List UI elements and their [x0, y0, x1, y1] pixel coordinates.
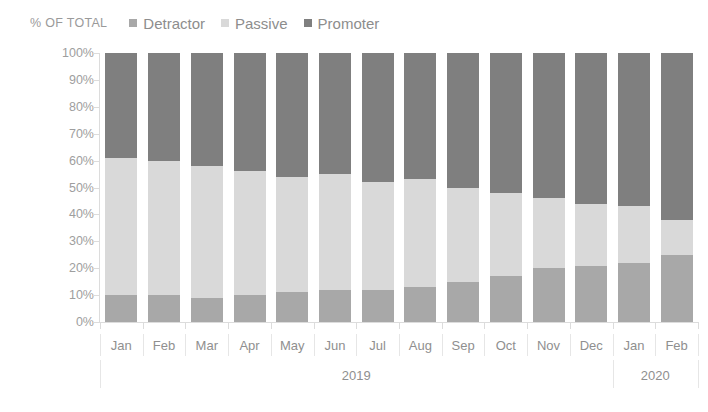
bar-segment-detractor[interactable]	[276, 292, 308, 322]
bar-column[interactable]	[362, 53, 394, 322]
bar-segment-passive[interactable]	[490, 193, 522, 276]
bar-column[interactable]	[319, 53, 351, 322]
y-axis-tick-mark	[93, 268, 99, 269]
y-axis-tick-label: 50%	[46, 181, 94, 195]
bar-segment-promoter[interactable]	[362, 53, 394, 182]
x-axis-month-label: Aug	[399, 332, 442, 358]
bar-segment-promoter[interactable]	[319, 53, 351, 174]
year-separator	[698, 360, 699, 388]
bar-segment-detractor[interactable]	[404, 287, 436, 322]
bar-segment-promoter[interactable]	[575, 53, 607, 204]
bar-segment-promoter[interactable]	[533, 53, 565, 198]
y-axis-tick-label: 10%	[46, 288, 94, 302]
month-separator	[399, 334, 400, 356]
x-axis-month-label: Sep	[442, 332, 485, 358]
bar-segment-detractor[interactable]	[105, 295, 137, 322]
bar-segment-detractor[interactable]	[575, 266, 607, 322]
x-axis-tick-mark	[484, 323, 485, 329]
y-axis-tick-mark	[93, 53, 99, 54]
bar-segment-detractor[interactable]	[618, 263, 650, 322]
bar-segment-passive[interactable]	[362, 182, 394, 290]
y-axis-tick-label: 60%	[46, 154, 94, 168]
bar-column[interactable]	[618, 53, 650, 322]
bar-segment-promoter[interactable]	[618, 53, 650, 206]
y-axis-tick-label: 20%	[46, 261, 94, 275]
bar-column[interactable]	[105, 53, 137, 322]
month-separator	[570, 334, 571, 356]
x-axis-tick-mark	[570, 323, 571, 329]
bar-segment-detractor[interactable]	[490, 276, 522, 322]
bar-segment-passive[interactable]	[447, 188, 479, 282]
bar-segment-passive[interactable]	[575, 204, 607, 266]
bar-segment-promoter[interactable]	[148, 53, 180, 161]
month-separator	[228, 334, 229, 356]
x-axis-tick-mark	[698, 323, 699, 329]
month-separator	[356, 334, 357, 356]
y-axis-tick-mark	[93, 188, 99, 189]
month-separator	[442, 334, 443, 356]
y-axis-tick-mark	[93, 107, 99, 108]
x-axis-tick-mark	[271, 323, 272, 329]
month-separator	[527, 334, 528, 356]
bar-segment-passive[interactable]	[404, 179, 436, 287]
month-separator	[143, 334, 144, 356]
bar-segment-passive[interactable]	[319, 174, 351, 290]
bar-column[interactable]	[575, 53, 607, 322]
bar-segment-detractor[interactable]	[148, 295, 180, 322]
bar-column[interactable]	[404, 53, 436, 322]
y-axis-tick-label: 80%	[46, 100, 94, 114]
month-separator	[314, 334, 315, 356]
bar-segment-passive[interactable]	[105, 158, 137, 295]
y-axis-tick-label: 40%	[46, 207, 94, 221]
bar-segment-passive[interactable]	[533, 198, 565, 268]
x-axis-year-labels: 20192020	[100, 360, 698, 390]
bar-segment-detractor[interactable]	[447, 282, 479, 322]
bar-segment-promoter[interactable]	[447, 53, 479, 188]
x-axis-month-label: May	[271, 332, 314, 358]
bar-column[interactable]	[447, 53, 479, 322]
bar-segment-detractor[interactable]	[191, 298, 223, 322]
year-separator	[100, 360, 101, 388]
bar-segment-detractor[interactable]	[234, 295, 266, 322]
y-axis-tick-label: 30%	[46, 234, 94, 248]
bar-segment-promoter[interactable]	[661, 53, 693, 220]
y-axis-tick-mark	[93, 295, 99, 296]
y-axis-tick-mark	[93, 214, 99, 215]
bar-segment-passive[interactable]	[276, 177, 308, 293]
bar-column[interactable]	[661, 53, 693, 322]
bar-segment-passive[interactable]	[618, 206, 650, 262]
bar-segment-promoter[interactable]	[191, 53, 223, 166]
month-separator	[484, 334, 485, 356]
bar-column[interactable]	[191, 53, 223, 322]
bar-segment-passive[interactable]	[661, 220, 693, 255]
bar-segment-promoter[interactable]	[276, 53, 308, 177]
bar-segment-detractor[interactable]	[661, 255, 693, 322]
bar-segment-passive[interactable]	[148, 161, 180, 296]
bar-segment-promoter[interactable]	[490, 53, 522, 193]
plot-wrapper: 0%10%20%30%40%50%60%70%80%90%100% JanFeb…	[0, 0, 708, 412]
bar-segment-passive[interactable]	[234, 171, 266, 295]
bar-column[interactable]	[234, 53, 266, 322]
bar-column[interactable]	[276, 53, 308, 322]
x-axis-tick-mark	[613, 323, 614, 329]
y-axis-tick-label: 100%	[46, 46, 94, 60]
x-axis-month-label: Jun	[314, 332, 357, 358]
bar-column[interactable]	[148, 53, 180, 322]
x-axis-month-label: Mar	[185, 332, 228, 358]
bar-segment-promoter[interactable]	[234, 53, 266, 171]
bar-segment-detractor[interactable]	[319, 290, 351, 322]
bar-segment-passive[interactable]	[191, 166, 223, 298]
year-separator	[613, 360, 614, 388]
bar-column[interactable]	[533, 53, 565, 322]
bar-segment-promoter[interactable]	[105, 53, 137, 158]
x-axis-tick-mark	[143, 323, 144, 329]
bar-segment-detractor[interactable]	[533, 268, 565, 322]
y-axis-tick-mark	[93, 241, 99, 242]
month-separator	[185, 334, 186, 356]
bar-column[interactable]	[490, 53, 522, 322]
x-axis-tick-mark	[356, 323, 357, 329]
bar-segment-detractor[interactable]	[362, 290, 394, 322]
y-axis-tick-mark	[93, 322, 99, 323]
x-axis-month-label: Oct	[484, 332, 527, 358]
bar-segment-promoter[interactable]	[404, 53, 436, 179]
